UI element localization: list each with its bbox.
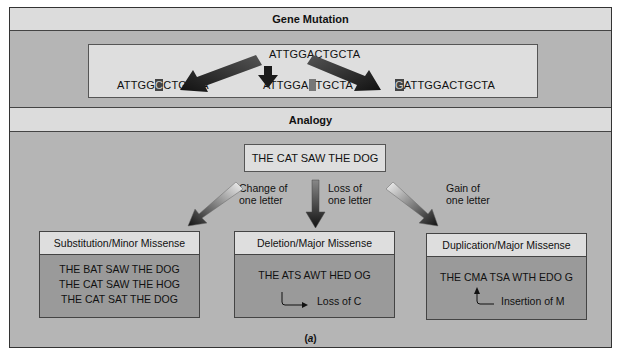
gene-arrow-down-icon [258,66,278,88]
gene-arrow-right-icon [307,55,381,91]
analogy-arrow-down-icon [306,180,325,228]
gene-arrow-left-icon [180,55,262,92]
insertion-pointer-arrow-icon [474,287,494,304]
loss-pointer-arrow-icon [282,292,308,308]
analogy-arrow-left-icon [188,182,243,226]
arrows-layer [0,0,620,358]
analogy-arrow-right-icon [386,182,438,226]
